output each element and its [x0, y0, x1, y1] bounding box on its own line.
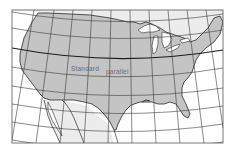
parallel-label: parallel: [106, 68, 129, 76]
map-figure: Standard parallel: [0, 0, 234, 154]
standard-label: Standard: [71, 65, 99, 72]
map-svg: Standard parallel: [0, 0, 234, 154]
